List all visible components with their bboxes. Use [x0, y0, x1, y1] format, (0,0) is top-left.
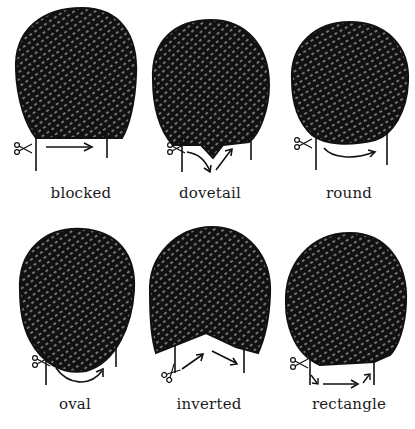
- label-rectangle: rectangle: [280, 395, 415, 413]
- arrow-corner-up-icon: [363, 374, 370, 383]
- panel-rectangle: rectangle: [280, 215, 415, 429]
- scissors-icon: [295, 138, 312, 150]
- arrow-down-icon: [212, 351, 237, 365]
- scissors-icon: [15, 143, 32, 155]
- panel-blocked: blocked: [12, 0, 150, 214]
- label-round: round: [280, 184, 415, 202]
- scissors-icon: [161, 363, 182, 384]
- label-inverted: inverted: [140, 395, 278, 413]
- dovetail-hair-illustration: [141, 0, 279, 214]
- panel-inverted: inverted: [140, 215, 278, 429]
- label-oval: oval: [6, 395, 144, 413]
- blocked-hair-illustration: [12, 0, 150, 214]
- arrow-right-icon: [46, 143, 92, 151]
- arrow-right-icon: [323, 380, 358, 388]
- arrow-up-icon: [182, 354, 203, 369]
- panel-dovetail: dovetail: [141, 0, 279, 214]
- panel-round: round: [280, 0, 415, 214]
- arrow-down-icon: [187, 152, 211, 172]
- arrow-corner-down-icon: [311, 375, 318, 384]
- haircut-shapes-diagram: blocked: [0, 0, 415, 429]
- panel-oval: oval: [6, 215, 144, 429]
- curved-arrow-icon: [324, 148, 375, 157]
- scissors-icon: [291, 358, 308, 370]
- label-dovetail: dovetail: [141, 184, 279, 202]
- label-blocked: blocked: [12, 184, 150, 202]
- round-hair-illustration: [280, 0, 415, 214]
